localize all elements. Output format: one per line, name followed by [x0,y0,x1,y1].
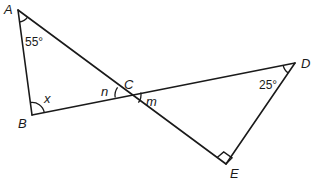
segment-bd [32,63,295,115]
angle-label-c-left: n [101,84,108,99]
point-label-e: E [230,166,239,178]
angle-label-b: x [43,91,51,106]
point-label-c: C [124,77,134,92]
point-label-a: A [3,2,13,17]
angle-label-d: 25° [259,78,277,92]
angle-arc-d [283,65,288,73]
segment-ab [18,10,32,115]
angle-arc-c-left [115,87,118,97]
angle-label-c-right: m [146,94,157,109]
point-label-d: D [301,56,310,71]
point-label-b: B [18,116,27,131]
angle-arc-a [20,17,28,22]
geometry-diagram: A B C D E 55° x n m 25° [0,0,314,178]
angle-arc-b [30,102,44,112]
segment-ae [18,10,226,164]
angle-label-a: 55° [25,35,43,49]
